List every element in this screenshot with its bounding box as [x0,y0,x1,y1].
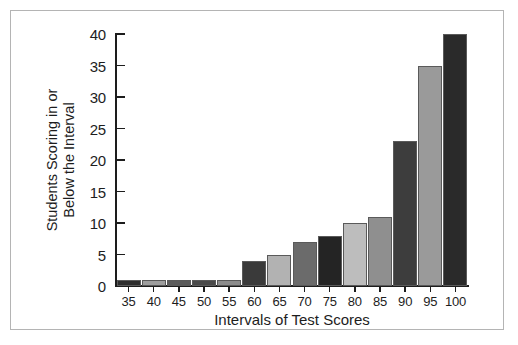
y-axis-tick-label: 25 [90,120,106,137]
bar-40 [142,280,166,286]
bar-90 [393,141,417,286]
y-axis-label-text: Students Scoring in or Below the Interva… [44,89,78,232]
y-axis-label-line-1: Students Scoring in or [44,89,60,232]
y-axis-label-container: Students Scoring in or Below the Interva… [45,34,89,286]
bar-70 [293,242,317,286]
y-axis-tick-label: 5 [98,246,106,263]
plot-area [116,34,468,286]
x-axis-tick-label: 65 [272,294,286,309]
y-axis-tick-label: 0 [98,278,106,295]
x-axis-tick-label: 35 [122,294,136,309]
figure-frame: Students Scoring in or Below the Interva… [10,10,504,330]
x-axis-tick-label: 90 [398,294,412,309]
y-axis-tick-label: 10 [90,215,106,232]
x-axis-tick [430,287,431,292]
x-axis-tick [228,287,229,292]
bar-55 [217,280,241,286]
x-axis-tick-label: 55 [222,294,236,309]
bar-60 [242,261,266,286]
bar-85 [368,217,392,286]
x-axis-tick [203,287,204,292]
x-axis-tick [404,287,405,292]
x-axis-tick-label: 70 [298,294,312,309]
x-axis-tick [254,287,255,292]
x-axis-label: Intervals of Test Scores [116,311,468,328]
y-axis-tick-label: 40 [90,26,106,43]
x-axis-tick-label: 60 [247,294,261,309]
x-axis-tick [304,287,305,292]
y-axis-tick-label: 30 [90,89,106,106]
y-axis-label-line-2: Below the Interval [61,102,77,217]
x-axis-tick-label: 100 [445,294,466,309]
bar-100 [443,34,467,286]
x-axis-tick [279,287,280,292]
x-axis-tick-label: 85 [373,294,387,309]
x-axis-tick [329,287,330,292]
y-axis-tick-label: 35 [90,57,106,74]
x-axis-tick [153,287,154,292]
x-axis-tick-label: 95 [423,294,437,309]
bar-45 [167,280,191,286]
x-axis-tick [455,287,456,292]
bar-35 [117,280,141,286]
x-axis-tick [178,287,179,292]
y-axis-tick-label: 20 [90,152,106,169]
x-axis-tick-label: 75 [323,294,337,309]
bar-75 [318,236,342,286]
x-axis-tick-label: 45 [172,294,186,309]
bar-50 [192,280,216,286]
x-axis-tick-label: 80 [348,294,362,309]
y-axis-label: Students Scoring in or Below the Interva… [39,34,83,286]
x-axis-tick [354,287,355,292]
x-axis-tick-label: 40 [147,294,161,309]
x-axis-tick [128,287,129,292]
bar-80 [343,223,367,286]
y-axis-tick-label: 15 [90,183,106,200]
x-axis-tick-label: 50 [197,294,211,309]
x-axis-tick [379,287,380,292]
bar-95 [418,66,442,287]
bar-65 [267,255,291,287]
